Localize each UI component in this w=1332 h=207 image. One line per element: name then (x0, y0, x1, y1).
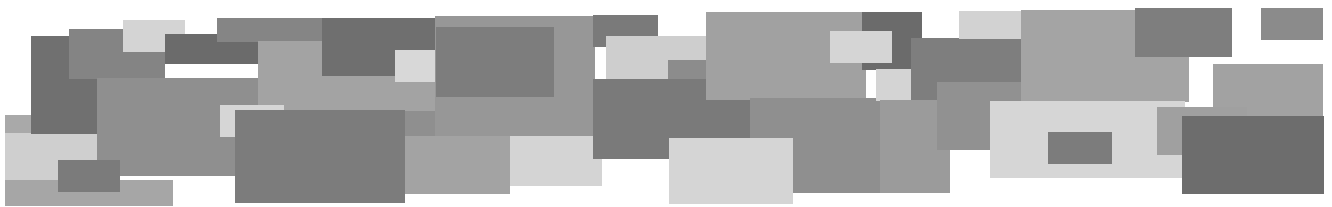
mosaic-tile (830, 31, 892, 63)
mosaic-tile (1135, 8, 1232, 57)
mosaic-tile (235, 110, 405, 203)
mosaic-tile (217, 18, 322, 42)
mosaic-tile (876, 69, 911, 101)
mosaic-tile (1182, 116, 1324, 194)
mosaic-tile (5, 115, 33, 135)
mosaic-tile (1261, 8, 1323, 40)
mosaic-tile (436, 27, 554, 97)
mosaic-tile (959, 11, 1021, 39)
mosaic-tile (510, 136, 602, 186)
mosaic-tile (669, 138, 793, 204)
mosaic-tile (58, 160, 120, 192)
mosaic-tile (1048, 132, 1112, 164)
mosaic-tile (405, 136, 510, 194)
abstract-mosaic-banner (0, 0, 1332, 207)
